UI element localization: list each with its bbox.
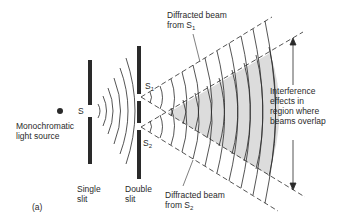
double-slit-diagram: S Monochromatic light source Single slit…: [0, 0, 337, 221]
double-slit-label: Double slit: [125, 184, 152, 204]
single-slit-gap-label: S: [78, 106, 84, 116]
single-slit-upper: [88, 60, 92, 105]
double-slit-middle: [137, 101, 141, 123]
double-slit-top: [137, 46, 141, 94]
wavefronts-single-slit: [98, 58, 135, 164]
panel-label: (a): [32, 202, 42, 212]
single-slit-lower: [88, 117, 92, 164]
interference-label: Interference effects in region where bea…: [270, 86, 326, 126]
beam2-label: Diffracted beam from S2: [165, 190, 225, 213]
beam1-label: Diffracted beam from S1: [167, 10, 227, 33]
slit2-label: S2: [143, 138, 152, 151]
slit1-label: S1: [145, 81, 154, 94]
source-label: Monochromatic light source: [16, 121, 74, 141]
single-slit-label: Single slit: [77, 184, 101, 204]
light-source-dot: [57, 108, 63, 114]
double-slit-bottom: [137, 130, 141, 179]
